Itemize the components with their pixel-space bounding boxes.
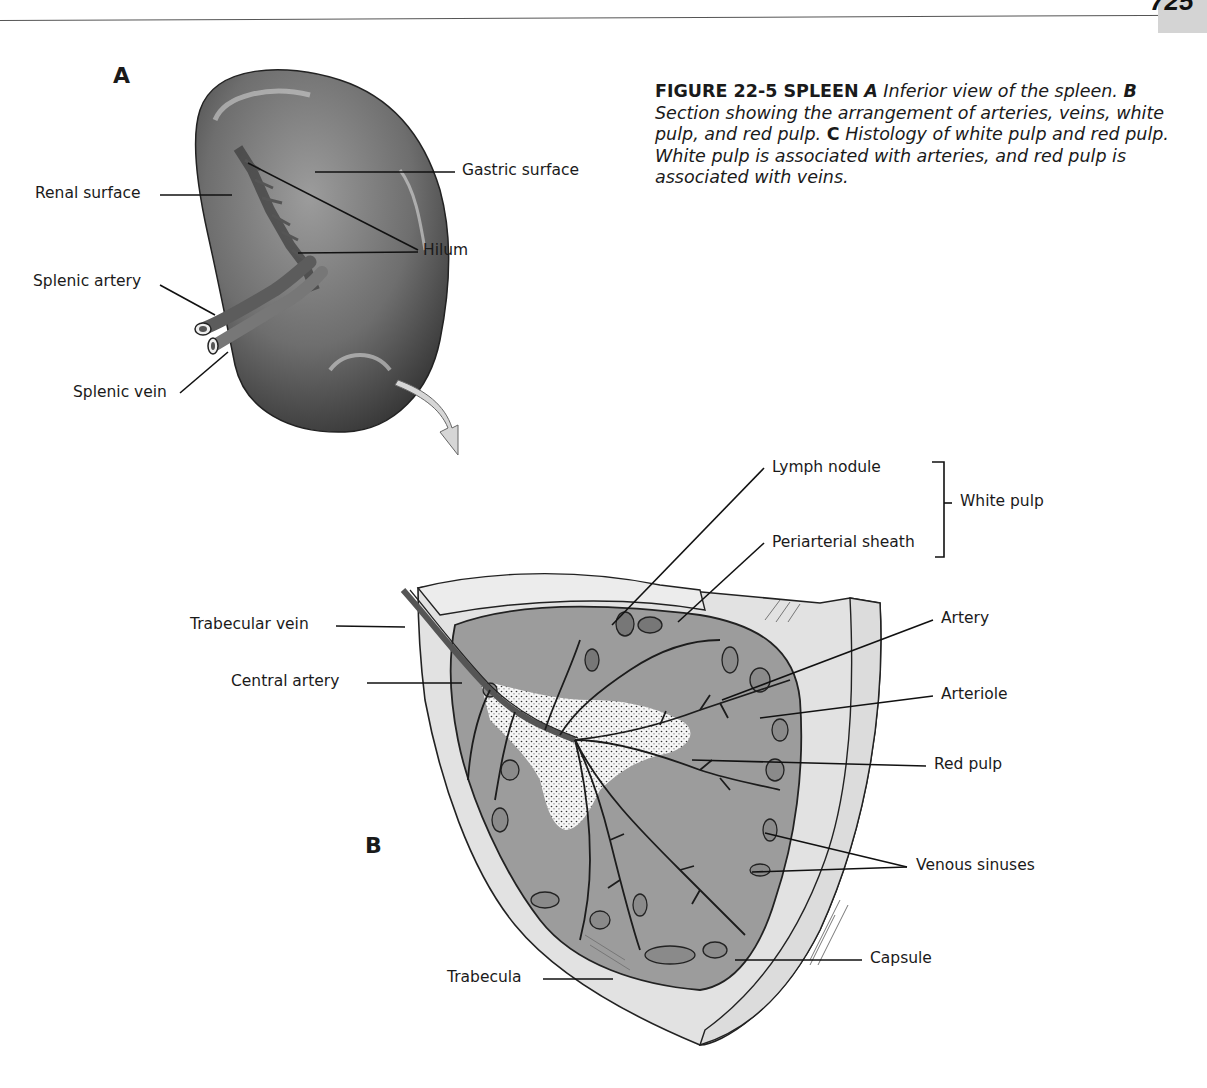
label-splenic-artery: Splenic artery — [33, 272, 141, 290]
label-central-artery: Central artery — [231, 672, 339, 690]
label-splenic-vein: Splenic vein — [73, 383, 167, 401]
panel-b-letter: B — [365, 833, 382, 858]
label-gastric-surface: Gastric surface — [462, 161, 579, 179]
label-white-pulp: White pulp — [960, 492, 1044, 510]
panel-a-letter: A — [113, 63, 130, 88]
label-venous-sinuses: Venous sinuses — [916, 856, 1035, 874]
label-capsule: Capsule — [870, 949, 932, 967]
label-trabecula: Trabecula — [447, 968, 522, 986]
figure-artwork — [0, 0, 1207, 1088]
label-trabecular-vein: Trabecular vein — [190, 615, 309, 633]
spleen-inferior-view-illustration — [195, 70, 449, 432]
label-red-pulp: Red pulp — [934, 755, 1002, 773]
label-renal-surface: Renal surface — [35, 184, 140, 202]
label-artery: Artery — [941, 609, 989, 627]
label-lymph-nodule: Lymph nodule — [772, 458, 881, 476]
label-arteriole: Arteriole — [941, 685, 1008, 703]
label-hilum: Hilum — [423, 241, 468, 259]
label-periarterial-sheath: Periarterial sheath — [772, 533, 915, 551]
